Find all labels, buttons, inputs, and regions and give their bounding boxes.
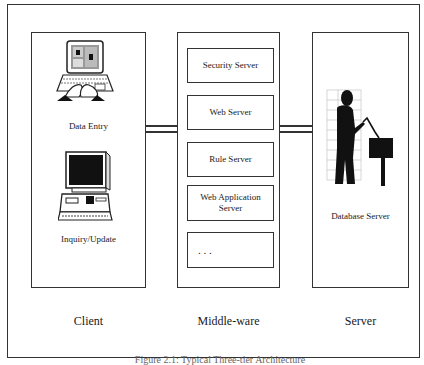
desktop-computer-icon bbox=[58, 150, 114, 222]
rule-server-box: Rule Server bbox=[187, 142, 274, 177]
more-servers-box: . . . bbox=[187, 232, 274, 268]
data-entry-label: Data Entry bbox=[31, 121, 146, 131]
connector-line bbox=[146, 131, 177, 133]
figure-caption: Figure 2.1: Typical Three-tier Architect… bbox=[120, 354, 320, 365]
server-column-label: Server bbox=[312, 314, 409, 329]
database-server-label: Database Server bbox=[312, 211, 409, 221]
laptop-typing-icon bbox=[55, 39, 115, 111]
connector-line bbox=[280, 131, 312, 133]
middleware-column-label: Middle-ware bbox=[177, 314, 280, 329]
connector-line bbox=[280, 125, 312, 127]
client-column-label: Client bbox=[31, 314, 146, 329]
inquiry-update-label: Inquiry/Update bbox=[31, 234, 146, 244]
person-at-terminal-icon bbox=[325, 88, 395, 188]
web-server-box: Web Server bbox=[187, 95, 274, 130]
security-server-box: Security Server bbox=[187, 48, 274, 83]
connector-line bbox=[146, 125, 177, 127]
web-application-server-box: Web Application Server bbox=[187, 185, 274, 221]
